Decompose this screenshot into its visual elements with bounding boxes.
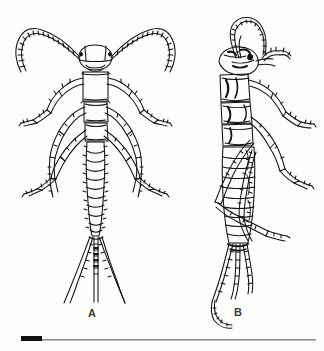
antenna-right-a	[111, 29, 175, 72]
figure-label-a: A	[88, 308, 96, 319]
caudal-filaments-b	[211, 244, 252, 328]
illustration-plate: A B	[0, 0, 324, 351]
foreleg-b	[249, 80, 316, 128]
thorax-b	[220, 74, 253, 146]
head-a	[78, 45, 113, 71]
figure-label-b: B	[234, 307, 242, 318]
figure-b-lateral	[211, 17, 316, 328]
mesonotum-a	[84, 102, 108, 122]
figure-a-dorsal	[16, 29, 175, 303]
midleg-right-a	[105, 107, 143, 197]
caudal-filaments-a	[64, 237, 125, 303]
scale-bar	[21, 336, 42, 341]
figure-drawings	[0, 0, 324, 351]
baseline-rule-shadow	[40, 340, 316, 341]
foreleg-left-a	[19, 78, 84, 126]
metanotum-a	[85, 123, 108, 141]
midleg-left-a	[48, 107, 86, 197]
foreleg-right-a	[107, 78, 172, 126]
head-b	[219, 47, 291, 75]
hindleg-b-far	[238, 150, 256, 241]
pronotum-a	[81, 72, 110, 103]
antenna-left-a	[16, 29, 80, 72]
abdomen-a	[83, 142, 108, 236]
